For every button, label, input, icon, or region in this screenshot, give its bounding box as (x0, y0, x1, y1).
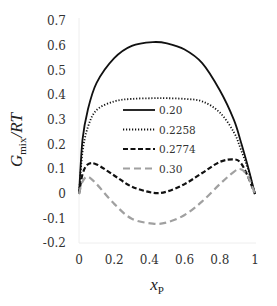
series-line-0-30 (79, 169, 255, 224)
y-tick-label: 0.1 (47, 162, 66, 176)
y-tick-labels: 0.70.60.50.40.30.20.10-0.1-0.2 (43, 14, 66, 250)
x-tick-label: 1 (251, 253, 259, 267)
x-tick-label: 0.2 (105, 253, 124, 267)
legend-label: 0.30 (159, 163, 182, 175)
y-tick-label: 0.3 (47, 113, 66, 127)
x-tick-labels: 00.20.40.60.81 (75, 253, 259, 267)
y-axis-label: Gmix/RT (7, 111, 28, 167)
y-tick-label: -0.1 (43, 212, 66, 226)
legend: 0.200.22580.27740.30 (123, 104, 196, 175)
y-tick-label: -0.2 (43, 236, 66, 250)
line-chart: 0.70.60.50.40.30.20.10-0.1-0.2 00.20.40.… (0, 0, 277, 306)
y-tick-label: 0.6 (47, 39, 66, 53)
y-tick-label: 0.7 (47, 14, 66, 28)
x-tick-label: 0.4 (140, 253, 159, 267)
x-axis-label: xP (149, 275, 164, 296)
y-tick-label: 0.2 (47, 138, 66, 152)
x-tick-label: 0.8 (210, 253, 229, 267)
x-tick-label: 0.6 (175, 253, 194, 267)
y-tick-label: 0.5 (47, 64, 66, 78)
legend-label: 0.2258 (159, 124, 196, 136)
y-tick-label: 0 (58, 187, 66, 201)
legend-label: 0.20 (159, 104, 182, 116)
legend-label: 0.2774 (159, 143, 196, 155)
y-tick-label: 0.4 (47, 88, 66, 102)
x-tick-label: 0 (75, 253, 83, 267)
